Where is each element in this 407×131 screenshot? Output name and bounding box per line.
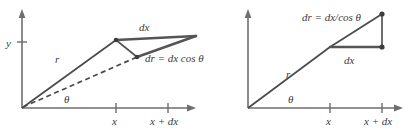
right-r-label: r bbox=[286, 68, 291, 80]
right-dr-expression-label: dr = dx/cos θ bbox=[302, 11, 362, 23]
left-x-tick-label: x bbox=[111, 115, 117, 127]
left-vertex-p bbox=[114, 38, 119, 43]
left-r-label: r bbox=[55, 53, 60, 65]
geometry-figure: y r θ dx dr = dx cos θ x x + dx bbox=[0, 0, 407, 131]
right-vertex-c bbox=[379, 44, 384, 49]
right-vertex-b bbox=[379, 11, 384, 16]
left-dashed-ray bbox=[23, 57, 137, 107]
right-x-axis-arrowhead bbox=[394, 105, 403, 112]
left-panel: y r θ dx dr = dx cos θ x x + dx bbox=[5, 9, 204, 127]
left-vertex-r bbox=[135, 55, 140, 60]
right-x-tick-label: x bbox=[325, 115, 331, 127]
right-dx-label: dx bbox=[344, 54, 355, 66]
left-y-axis-label: y bbox=[5, 37, 11, 49]
left-dr-expression-label: dr = dx cos θ bbox=[145, 52, 204, 64]
left-x-axis-arrowhead bbox=[187, 105, 196, 112]
right-theta-label: θ bbox=[288, 93, 294, 105]
left-perpendicular-segment bbox=[116, 40, 137, 57]
left-y-axis-arrowhead bbox=[19, 9, 26, 18]
right-panel: r θ dr = dx/cos θ dx x x + dx bbox=[245, 9, 403, 127]
left-dx-label: dx bbox=[139, 21, 150, 33]
figure-canvas: y r θ dx dr = dx cos θ x x + dx bbox=[0, 0, 407, 131]
left-theta-label: θ bbox=[64, 93, 70, 105]
right-x-plus-dx-tick-label: x + dx bbox=[363, 115, 392, 127]
right-y-axis-arrowhead bbox=[245, 9, 252, 18]
left-x-plus-dx-tick-label: x + dx bbox=[149, 115, 178, 127]
